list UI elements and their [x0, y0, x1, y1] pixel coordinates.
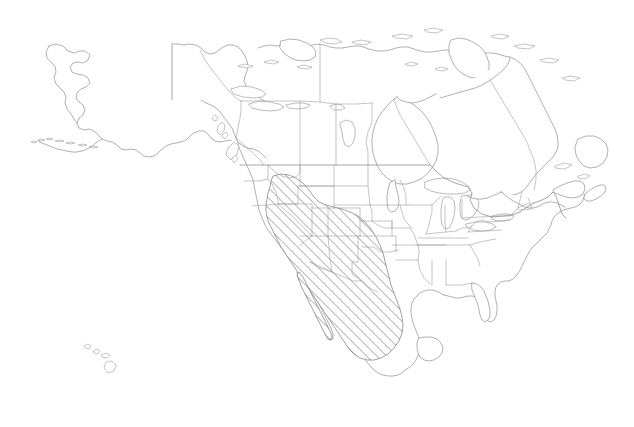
north-america-map-canvas	[0, 0, 634, 427]
range-map-figure	[0, 0, 634, 427]
